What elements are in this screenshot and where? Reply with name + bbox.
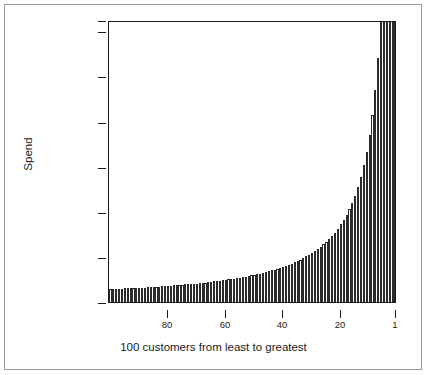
bar	[210, 282, 212, 302]
bar	[230, 279, 232, 302]
y-tick-mark	[98, 123, 106, 124]
bar	[236, 278, 238, 302]
bar	[158, 287, 160, 302]
x-tick-label: 40	[267, 320, 297, 330]
x-tick-label: 60	[210, 320, 240, 330]
bar	[371, 115, 373, 302]
bar	[176, 285, 178, 302]
bar	[328, 239, 330, 302]
bar	[170, 286, 172, 302]
bar	[213, 281, 215, 302]
bar	[322, 244, 324, 302]
bar	[259, 274, 261, 302]
bar	[153, 287, 155, 302]
bar	[109, 289, 111, 302]
bar	[202, 283, 204, 302]
bar	[199, 283, 201, 302]
bar	[320, 247, 322, 302]
bar	[233, 279, 235, 302]
y-tick-mark	[98, 168, 106, 169]
bar	[340, 224, 342, 302]
bar	[196, 284, 198, 302]
bar	[299, 260, 301, 302]
bar	[317, 249, 319, 302]
y-axis-title: Spend	[22, 114, 34, 194]
bar	[219, 281, 221, 302]
bar	[112, 289, 114, 302]
bar-series	[109, 22, 395, 302]
bar	[245, 277, 247, 302]
bar	[363, 165, 365, 302]
x-axis-title: 100 customers from least to greatest	[0, 341, 427, 353]
x-tick-mark	[395, 310, 396, 318]
bar	[392, 21, 394, 302]
bar	[222, 280, 224, 302]
bar	[374, 90, 376, 302]
x-tick-label: 80	[152, 320, 182, 330]
bar	[386, 21, 388, 302]
bar	[184, 284, 186, 302]
bar	[343, 220, 345, 302]
bar	[334, 233, 336, 302]
bar	[383, 21, 385, 302]
bar	[360, 177, 362, 302]
bar	[141, 288, 143, 302]
bar	[155, 287, 157, 302]
bar	[167, 286, 169, 302]
x-axis: 806040201 100 customers from least to gr…	[0, 303, 427, 375]
bar	[127, 288, 129, 302]
bar	[348, 209, 350, 302]
bar	[297, 261, 299, 302]
bar	[178, 285, 180, 302]
x-tick-mark	[225, 310, 226, 318]
bar	[115, 289, 117, 302]
bar	[331, 236, 333, 302]
x-tick-label: 20	[325, 320, 355, 330]
bar	[242, 277, 244, 302]
bar	[248, 276, 250, 302]
bar	[271, 270, 273, 302]
bar	[366, 152, 368, 302]
bar	[187, 284, 189, 302]
y-tick-mark	[98, 213, 106, 214]
bar	[253, 275, 255, 302]
y-tick-mark	[98, 258, 106, 259]
bar	[279, 268, 281, 302]
bar	[193, 284, 195, 302]
bar	[121, 289, 123, 302]
bar	[130, 288, 132, 302]
bar	[325, 242, 327, 302]
x-tick-mark	[340, 310, 341, 318]
bar	[181, 285, 183, 302]
bar	[256, 274, 258, 302]
bar	[305, 256, 307, 302]
bar	[276, 269, 278, 302]
bar	[351, 203, 353, 302]
bar	[268, 271, 270, 302]
bar	[311, 253, 313, 302]
bar	[380, 21, 382, 302]
bar	[138, 288, 140, 302]
bar	[225, 280, 227, 302]
bar	[144, 288, 146, 302]
y-tick-mark	[98, 77, 106, 78]
bar	[118, 289, 120, 302]
bar	[357, 187, 359, 302]
y-tick-mark	[98, 21, 106, 22]
bar	[190, 284, 192, 302]
bar	[285, 266, 287, 302]
bar	[274, 270, 276, 302]
y-tick-mark	[98, 32, 106, 33]
bar	[282, 267, 284, 302]
bar	[135, 288, 137, 302]
bar	[294, 262, 296, 302]
bar	[369, 135, 371, 302]
bar	[216, 281, 218, 302]
bar	[132, 288, 134, 302]
bar	[314, 251, 316, 302]
bar	[150, 287, 152, 302]
bar	[204, 283, 206, 302]
bar	[147, 287, 149, 302]
bar	[161, 286, 163, 302]
bar	[288, 265, 290, 302]
